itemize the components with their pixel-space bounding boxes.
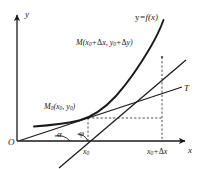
point-marker-m (161, 56, 163, 58)
point-marker-m0 (87, 117, 89, 119)
curve-equation-text: y (135, 12, 140, 22)
point-m-label: M(x0+Δx, y0+Δy) (76, 39, 133, 48)
origin-label: O (8, 138, 15, 147)
y-axis-label: y (25, 10, 29, 19)
tick-label-x0: x0 (83, 148, 89, 157)
tangent-line-label: T (184, 84, 189, 93)
tick-label-x0-plus-delta-x: x0+Δx (147, 148, 167, 157)
figure-canvas: y x O y=f(x) M(x0+Δx, y0+Δy) M0(x0, y0) … (0, 0, 200, 169)
angle-alpha-label: α (57, 130, 62, 139)
x-axis-label: x (188, 146, 192, 155)
point-m0-label: M0(x0, y0) (44, 103, 75, 112)
curve-equation-label: y=f(x) (135, 13, 158, 22)
angle-phi-label: φ (79, 129, 84, 138)
math-diagram-svg (0, 0, 200, 169)
curve-equation-var: x (151, 12, 155, 22)
